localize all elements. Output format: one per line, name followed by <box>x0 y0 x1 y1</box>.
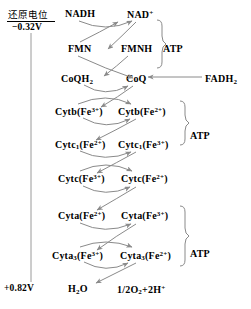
label-cyta3-ferric-ion: Fe <box>81 250 92 261</box>
label-oxygen-text: 1/2O <box>117 284 138 295</box>
arrow-cyta3-ferric-to-ferrous <box>80 242 132 247</box>
label-cyta-ferric-name: Cyta <box>121 210 142 221</box>
label-cytc1-ferric-name: Cytc <box>118 139 139 150</box>
label-fmn: FMN <box>68 43 91 54</box>
label-fmnh-text: FMNH <box>121 43 152 54</box>
arrow-cytc-cross <box>83 186 130 192</box>
label-nadh-text: NADH <box>65 8 95 19</box>
label-cytc1-ferric-charge: 3+ <box>157 139 165 147</box>
label-fadh2-text: FADH <box>205 73 233 84</box>
label-water-o: O <box>80 283 88 294</box>
arrow-cytb-ferrous-to-cytc1 <box>96 119 136 140</box>
label-water-h: H <box>68 283 76 294</box>
label-coqh2-text: CoQH <box>61 73 90 84</box>
label-cyta-ferrous-ion: Fe <box>83 210 94 221</box>
label-cytc-ferrous-ion: Fe <box>145 173 156 184</box>
arrow-nadh-to-nad <box>79 21 132 27</box>
arrow-cytc-ferric-to-ferrous <box>80 165 132 171</box>
arrow-cytb-pair-down <box>83 118 130 125</box>
label-cyta-ferric-ion: Fe <box>146 210 157 221</box>
label-cyta3-ferrous: Cyta3(Fe2+) <box>120 249 171 264</box>
label-cyta-ferrous: Cyta(Fe2+) <box>58 209 105 221</box>
label-cytc1-ferrous-name: Cytc <box>55 139 76 150</box>
label-cytc1-ferrous: Cytc1(Fe2+) <box>55 138 105 153</box>
potential-bottom-value: +0.82V <box>4 283 34 294</box>
label-cyta3-ferric: Cyta3(Fe3+) <box>52 249 103 264</box>
label-cytc-ferric-ion: Fe <box>82 173 93 184</box>
label-protons-text: +2H <box>142 284 161 295</box>
atp-label-3-text: ATP <box>190 248 210 259</box>
label-oxygen-protons: 1/2O2+2H+ <box>117 283 165 298</box>
label-cytc-ferric-charge: 3+ <box>93 173 101 181</box>
label-cytc1-ferric: Cytc1(Fe3+) <box>118 138 168 153</box>
label-cytc-ferrous-charge: 2+ <box>156 173 164 181</box>
label-cytc-ferric-name: Cytc <box>58 173 79 184</box>
label-cytc1-ferrous-ion: Fe <box>83 139 94 150</box>
label-cytc-ferrous-name: Cytc <box>121 173 142 184</box>
reduction-potential-caption: 还原电位 <box>8 9 48 20</box>
label-cytc1-ferrous-charge: 2+ <box>94 139 102 147</box>
label-cytc-ferrous: Cytc(Fe2+) <box>121 172 168 184</box>
label-cytb-ferric: Cytb(Fe3+) <box>55 105 103 117</box>
atp-label-3: ATP <box>190 248 210 259</box>
atp-bracket-3 <box>180 206 189 266</box>
arrow-cyta-to-cyta3 <box>97 224 136 250</box>
arrow-cytb-ferric-to-ferrous <box>78 98 131 104</box>
arrow-cyta3-to-water <box>96 263 136 283</box>
label-cyta-ferric: Cyta(Fe3+) <box>121 209 168 221</box>
label-fadh2: FADH2 <box>205 73 237 88</box>
atp-label-2: ATP <box>190 130 210 141</box>
label-cytb-ferrous-ion: Fe <box>143 106 154 117</box>
arrow-fmnh-to-coqh2 <box>104 56 128 76</box>
label-cyta3-ferrous-name: Cyta <box>120 250 141 261</box>
label-cyta-ferrous-charge: 2+ <box>94 210 102 218</box>
label-nad-text: NAD <box>127 9 149 20</box>
arrow-fmn-up <box>80 22 118 42</box>
label-nad-plus: NAD+ <box>127 8 153 20</box>
label-coqh2: CoQH2 <box>61 73 93 88</box>
label-nadh: NADH <box>65 8 95 19</box>
label-cytb-ferrous-name: Cytb <box>118 106 140 117</box>
label-cytb-ferric-name: Cytb <box>55 106 77 117</box>
label-cytb-ferrous: Cytb(Fe2+) <box>118 105 166 117</box>
arrow-cytc-to-cyta <box>97 187 136 210</box>
label-cyta3-ferrous-ion: Fe <box>149 250 160 261</box>
label-cytb-ferric-ion: Fe <box>80 106 91 117</box>
label-coq: CoQ <box>126 73 147 84</box>
label-protons-charge: + <box>161 284 165 292</box>
label-fmnh: FMNH <box>121 43 152 54</box>
label-fadh2-sub: 2 <box>233 78 237 86</box>
arrow-cytc1-to-cytc <box>97 152 136 173</box>
etc-diagram-canvas: 还原电位 −0.32V +0.82V NADH NAD+ FMN FMNH AT… <box>0 0 251 309</box>
label-cyta-ferric-charge: 3+ <box>157 210 165 218</box>
label-cytc-ferric: Cytc(Fe3+) <box>58 172 105 184</box>
atp-bracket-2 <box>180 101 189 145</box>
atp-label-1: ATP <box>163 43 183 54</box>
label-coq-text: CoQ <box>126 73 147 84</box>
label-fmn-text: FMN <box>68 43 91 54</box>
atp-label-1-text: ATP <box>163 43 183 54</box>
atp-label-2-text: ATP <box>190 130 210 141</box>
label-nad-charge: + <box>149 9 153 17</box>
arrow-cyta-cross <box>80 223 131 229</box>
arrow-coq-to-cytb-ferrous <box>101 86 133 107</box>
label-cyta-ferrous-name: Cyta <box>58 210 79 221</box>
label-water: H2O <box>68 283 88 298</box>
label-coqh2-sub: 2 <box>90 78 94 86</box>
label-cyta3-ferric-name: Cyta <box>52 250 73 261</box>
potential-top-value: −0.32V <box>12 22 42 33</box>
label-cytc1-ferric-ion: Fe <box>146 139 157 150</box>
